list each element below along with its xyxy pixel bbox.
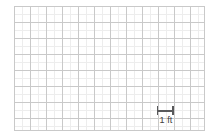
grid-border xyxy=(14,6,205,131)
scale-bar: 1 ft xyxy=(156,106,174,130)
i-beam-scale-icon xyxy=(156,106,174,115)
scale-bar-label: 1 ft xyxy=(155,115,177,125)
diagram-canvas: 1 ft xyxy=(0,0,218,140)
scale-rule-line xyxy=(157,110,173,112)
graph-paper-grid xyxy=(14,6,205,131)
scale-cap-right xyxy=(172,106,174,115)
